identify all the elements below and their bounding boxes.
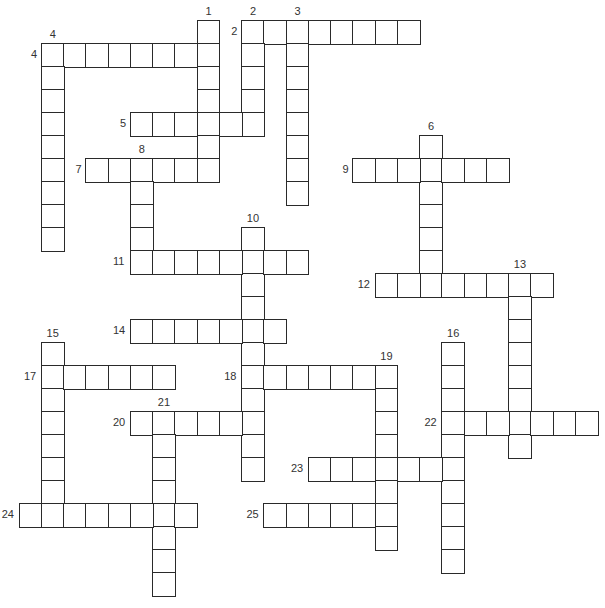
crossword-cell[interactable] [375, 20, 399, 45]
crossword-cell[interactable] [441, 365, 465, 390]
crossword-cell[interactable] [197, 411, 221, 436]
crossword-cell[interactable] [130, 365, 154, 390]
crossword-cell[interactable] [130, 43, 154, 68]
crossword-cell[interactable] [308, 503, 332, 528]
crossword-cell[interactable] [41, 204, 65, 229]
crossword-cell[interactable] [419, 273, 443, 298]
crossword-cell[interactable] [219, 112, 243, 137]
crossword-cell[interactable] [330, 457, 354, 482]
crossword-cell[interactable] [85, 365, 109, 390]
crossword-cell[interactable] [152, 411, 176, 436]
crossword-cell[interactable] [308, 457, 332, 482]
crossword-cell[interactable] [152, 250, 176, 275]
crossword-cell[interactable] [130, 204, 154, 229]
crossword-cell[interactable] [152, 365, 176, 390]
crossword-cell[interactable] [286, 181, 310, 206]
crossword-cell[interactable] [241, 296, 265, 321]
crossword-cell[interactable] [197, 89, 221, 114]
crossword-cell[interactable] [152, 480, 176, 505]
crossword-cell[interactable] [441, 434, 465, 459]
crossword-cell[interactable] [375, 365, 399, 390]
crossword-cell[interactable] [152, 158, 176, 183]
crossword-cell[interactable] [464, 411, 488, 436]
crossword-cell[interactable] [63, 365, 87, 390]
crossword-cell[interactable] [375, 526, 399, 551]
crossword-cell[interactable] [308, 365, 332, 390]
crossword-cell[interactable] [219, 319, 243, 344]
crossword-cell[interactable] [41, 158, 65, 183]
crossword-cell[interactable] [441, 549, 465, 574]
crossword-cell[interactable] [286, 112, 310, 137]
crossword-cell[interactable] [352, 158, 376, 183]
crossword-cell[interactable] [441, 273, 465, 298]
crossword-cell[interactable] [263, 365, 287, 390]
crossword-cell[interactable] [286, 365, 310, 390]
crossword-cell[interactable] [241, 434, 265, 459]
crossword-cell[interactable] [241, 112, 265, 137]
crossword-cell[interactable] [41, 227, 65, 252]
crossword-cell[interactable] [508, 342, 532, 367]
crossword-cell[interactable] [441, 158, 465, 183]
crossword-cell[interactable] [130, 181, 154, 206]
crossword-cell[interactable] [152, 434, 176, 459]
crossword-cell[interactable] [130, 158, 154, 183]
crossword-cell[interactable] [419, 181, 443, 206]
crossword-cell[interactable] [508, 365, 532, 390]
crossword-cell[interactable] [486, 411, 510, 436]
crossword-cell[interactable] [508, 296, 532, 321]
crossword-cell[interactable] [41, 342, 65, 367]
crossword-cell[interactable] [375, 434, 399, 459]
crossword-cell[interactable] [174, 158, 198, 183]
crossword-cell[interactable] [286, 250, 310, 275]
crossword-cell[interactable] [508, 273, 532, 298]
crossword-cell[interactable] [464, 158, 488, 183]
crossword-cell[interactable] [441, 457, 465, 482]
crossword-cell[interactable] [263, 20, 287, 45]
crossword-cell[interactable] [375, 388, 399, 413]
crossword-cell[interactable] [130, 227, 154, 252]
crossword-cell[interactable] [152, 549, 176, 574]
crossword-cell[interactable] [130, 319, 154, 344]
crossword-cell[interactable] [286, 89, 310, 114]
crossword-cell[interactable] [375, 273, 399, 298]
crossword-cell[interactable] [375, 411, 399, 436]
crossword-cell[interactable] [263, 319, 287, 344]
crossword-cell[interactable] [530, 273, 554, 298]
crossword-cell[interactable] [197, 250, 221, 275]
crossword-cell[interactable] [41, 434, 65, 459]
crossword-cell[interactable] [130, 250, 154, 275]
crossword-cell[interactable] [241, 66, 265, 91]
crossword-cell[interactable] [241, 43, 265, 68]
crossword-cell[interactable] [130, 112, 154, 137]
crossword-cell[interactable] [397, 20, 421, 45]
crossword-cell[interactable] [241, 365, 265, 390]
crossword-cell[interactable] [330, 20, 354, 45]
crossword-cell[interactable] [441, 503, 465, 528]
crossword-cell[interactable] [375, 480, 399, 505]
crossword-cell[interactable] [41, 503, 65, 528]
crossword-cell[interactable] [108, 43, 132, 68]
crossword-cell[interactable] [441, 411, 465, 436]
crossword-cell[interactable] [241, 342, 265, 367]
crossword-cell[interactable] [197, 20, 221, 45]
crossword-cell[interactable] [41, 66, 65, 91]
crossword-cell[interactable] [419, 204, 443, 229]
crossword-cell[interactable] [419, 457, 443, 482]
crossword-cell[interactable] [174, 503, 198, 528]
crossword-cell[interactable] [241, 227, 265, 252]
crossword-cell[interactable] [197, 319, 221, 344]
crossword-cell[interactable] [152, 457, 176, 482]
crossword-cell[interactable] [130, 503, 154, 528]
crossword-cell[interactable] [85, 503, 109, 528]
crossword-cell[interactable] [375, 503, 399, 528]
crossword-cell[interactable] [441, 342, 465, 367]
crossword-cell[interactable] [397, 273, 421, 298]
crossword-cell[interactable] [152, 112, 176, 137]
crossword-cell[interactable] [41, 388, 65, 413]
crossword-cell[interactable] [286, 43, 310, 68]
crossword-cell[interactable] [286, 66, 310, 91]
crossword-cell[interactable] [241, 388, 265, 413]
crossword-cell[interactable] [508, 411, 532, 436]
crossword-cell[interactable] [219, 250, 243, 275]
crossword-cell[interactable] [352, 503, 376, 528]
